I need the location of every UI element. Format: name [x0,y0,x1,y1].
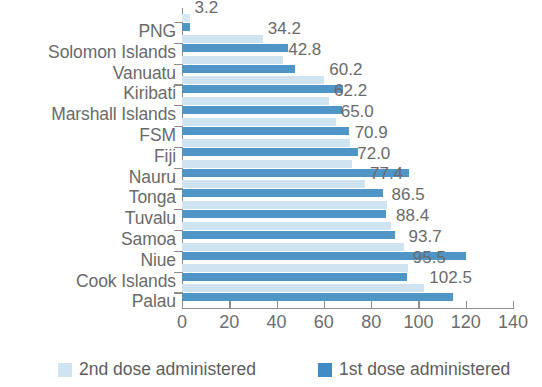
y-axis-tick [174,105,182,106]
y-axis-tick [174,251,182,252]
bar-group: 3.2 [182,14,513,32]
category-label: Solomon Islands [48,44,176,62]
bar-2nd-dose [182,76,324,84]
category-label: Kiribati [123,85,176,103]
bar-2nd-dose [182,14,190,22]
bar-group: 34.2 [182,35,513,53]
bar-2nd-dose [182,160,352,168]
bar-2nd-dose [182,97,329,105]
y-axis-tick [174,22,182,23]
legend-swatch-1st-dose-icon [318,363,332,377]
category-label: Samoa [121,231,176,249]
bar-value-label: 65.0 [341,103,374,120]
category-label: Tuvalu [125,210,176,228]
bar-value-label: 3.2 [195,0,219,16]
y-axis-tick [174,168,182,169]
bar-value-label: 86.5 [392,186,425,203]
category-label: Marshall Islands [51,106,176,124]
bar-value-label: 62.2 [334,82,367,99]
bar-1st-dose [182,231,395,239]
vaccination-doses-bar-chart: PNGSolomon IslandsVanuatuKiribatiMarshal… [0,0,542,387]
bar-2nd-dose [182,201,387,209]
bar-value-label: 95.5 [413,249,446,266]
bar-1st-dose [182,23,190,31]
y-axis-tick [174,188,182,189]
x-axis-tick-label: 60 [314,313,334,331]
category-label: Tonga [129,189,176,207]
bar-2nd-dose [182,56,283,64]
y-axis-tick [174,64,182,65]
bar-1st-dose [182,293,453,301]
bar-2nd-dose [182,35,263,43]
x-axis-line [182,308,514,309]
bar-1st-dose [182,148,358,156]
category-label: Fiji [154,148,176,166]
bar-1st-dose [182,189,383,197]
x-axis-tick-label: 80 [361,313,381,331]
bar-2nd-dose [182,222,391,230]
bar-2nd-dose [182,243,404,251]
y-axis-tick [174,147,182,148]
y-axis-tick [174,230,182,231]
bar-value-label: 42.8 [288,41,321,58]
bar-1st-dose [182,85,343,93]
chart-legend: 2nd dose administered 1st dose administe… [0,352,542,387]
category-label: Nauru [129,169,176,187]
bar-1st-dose [182,210,386,218]
bar-2nd-dose [182,118,336,126]
category-label: Cook Islands [76,273,176,291]
y-axis-tick [174,84,182,85]
y-axis-tick [174,126,182,127]
category-axis-labels: PNGSolomon IslandsVanuatuKiribatiMarshal… [0,8,176,304]
bar-1st-dose [182,44,288,52]
bar-value-label: 102.5 [429,269,472,286]
legend-item-2nd-dose: 2nd dose administered [58,361,256,379]
bar-group: 86.5 [182,201,513,219]
legend-item-1st-dose: 1st dose administered [318,361,510,379]
legend-swatch-2nd-dose-icon [58,363,72,377]
bar-2nd-dose [182,284,424,292]
bar-group: 72.0 [182,160,513,178]
bar-value-label: 72.0 [357,145,390,162]
category-label: Vanuatu [113,65,176,83]
bar-2nd-dose [182,180,365,188]
bar-value-label: 93.7 [409,228,442,245]
x-axis-tick-label: 40 [267,313,287,331]
y-axis-tick [174,292,182,293]
category-label: Niue [140,252,176,270]
bar-1st-dose [182,65,295,73]
bar-2nd-dose [182,264,408,272]
x-axis-tick-label: 120 [451,313,481,331]
bar-group: 102.5 [182,284,513,302]
x-axis-tick-label: 20 [219,313,239,331]
bar-value-label: 60.2 [329,61,362,78]
bar-2nd-dose [182,139,350,147]
x-axis-tick-label: 140 [498,313,528,331]
x-axis-tick [513,301,514,309]
bar-value-label: 34.2 [268,20,301,37]
legend-label-2nd-dose: 2nd dose administered [79,361,256,379]
category-label: PNG [138,23,176,41]
bar-group: 93.7 [182,243,513,261]
bar-1st-dose [182,127,349,135]
bar-1st-dose [182,106,342,114]
bar-1st-dose [182,273,407,281]
bar-group: 70.9 [182,139,513,157]
x-axis-tick-label: 100 [403,313,433,331]
bar-value-label: 88.4 [396,207,429,224]
y-axis-tick [174,272,182,273]
legend-label-1st-dose: 1st dose administered [339,361,510,379]
category-label: FSM [139,127,176,145]
y-axis-tick [174,43,182,44]
plot-area: PNGSolomon IslandsVanuatuKiribatiMarshal… [0,0,542,340]
bar-group: 88.4 [182,222,513,240]
y-axis-tick [174,209,182,210]
bar-group: 77.4 [182,180,513,198]
x-axis-tick-label: 0 [177,313,187,331]
bar-value-label: 77.4 [370,165,403,182]
bar-value-label: 70.9 [355,124,388,141]
bar-group: 65.0 [182,118,513,136]
category-label: Palau [132,293,176,311]
